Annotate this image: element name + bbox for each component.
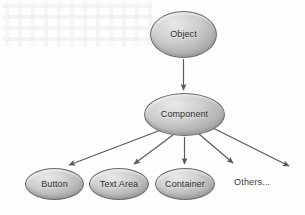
edge-component-others xyxy=(199,134,233,163)
node-button[interactable]: Button xyxy=(25,168,84,200)
node-button-label: Button xyxy=(41,180,68,189)
node-container[interactable]: Container xyxy=(155,168,215,200)
node-object-label: Object xyxy=(170,30,197,39)
node-others-label: Others... xyxy=(234,177,270,187)
edge-component-unlabeled-right xyxy=(213,128,289,166)
node-component-label: Component xyxy=(161,110,208,119)
edge-component-button xyxy=(69,130,161,165)
node-component[interactable]: Component xyxy=(144,93,225,136)
node-text-area-label: Text Area xyxy=(100,180,138,189)
node-text-area[interactable]: Text Area xyxy=(89,168,149,200)
node-object[interactable]: Object xyxy=(150,11,217,58)
diagram-canvas: Object Component Button Text Area Contai… xyxy=(0,0,305,215)
edge-component-textarea xyxy=(134,135,173,164)
node-container-label: Container xyxy=(165,180,205,189)
